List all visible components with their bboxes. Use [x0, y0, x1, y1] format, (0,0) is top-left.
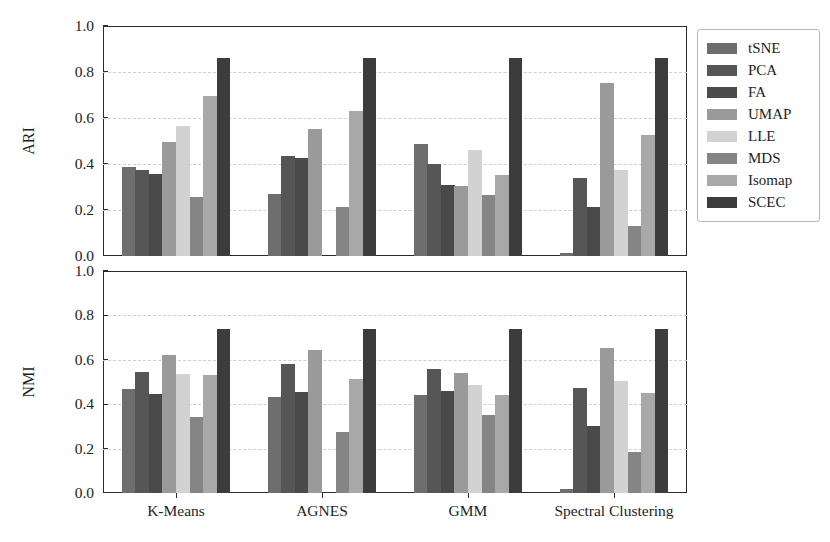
x-axis-tick-label-agnes: AGNES: [296, 502, 348, 520]
y-axis-tick: 0.4: [75, 395, 103, 413]
bar-agnes-mds: [336, 432, 350, 493]
bar-gmm-umap: [454, 186, 468, 256]
y-axis-tick: 0.6: [75, 109, 103, 127]
legend-swatch-icon-pca: [707, 65, 737, 76]
bar-gmm-scec: [509, 329, 523, 493]
bar-spectral-clustering-lle: [614, 170, 628, 256]
y-axis-tick-label: 0.4: [75, 155, 103, 173]
bar-gmm-mds: [482, 195, 496, 256]
legend-item-tsne[interactable]: tSNE: [707, 37, 811, 59]
bar-agnes-umap: [308, 350, 322, 493]
x-axis-tick-mark: [322, 493, 323, 498]
nmi-bars: [103, 271, 687, 493]
bar-gmm-pca: [427, 369, 441, 493]
bar-k-means-lle: [176, 126, 190, 256]
legend-label-lle: LLE: [748, 129, 776, 144]
bar-gmm-lle: [468, 150, 482, 256]
legend-label-mds: MDS: [748, 151, 781, 166]
bar-gmm-tsne: [414, 395, 428, 493]
legend-swatch-icon-scec: [707, 197, 737, 208]
bar-gmm-umap: [454, 373, 468, 493]
ari-axis-title: ARI: [20, 127, 38, 155]
bar-agnes-scec: [363, 329, 377, 493]
bar-k-means-scec: [217, 329, 231, 493]
bar-k-means-tsne: [122, 167, 136, 256]
bar-k-means-pca: [135, 170, 149, 256]
nmi-axis-title: NMI: [20, 366, 38, 397]
bar-spectral-clustering-pca: [573, 388, 587, 493]
bar-spectral-clustering-umap: [600, 348, 614, 493]
x-axis-categories: K-MeansAGNESGMMSpectral Clustering: [103, 493, 687, 523]
bar-agnes-isomap: [349, 379, 363, 493]
bar-spectral-clustering-tsne: [560, 253, 574, 256]
bar-spectral-clustering-pca: [573, 178, 587, 256]
y-axis-tick: 0.8: [75, 63, 103, 81]
bar-agnes-fa: [295, 392, 309, 493]
bar-agnes-pca: [281, 156, 295, 257]
legend-swatch-icon-mds: [707, 153, 737, 164]
x-axis-tick-label-k-means: K-Means: [147, 502, 205, 520]
bar-k-means-scec: [217, 58, 231, 256]
bar-k-means-isomap: [203, 96, 217, 256]
legend-label-umap: UMAP: [748, 107, 791, 122]
bar-spectral-clustering-fa: [587, 207, 601, 256]
bar-gmm-mds: [482, 415, 496, 493]
nmi-chart-panel: 0.00.20.40.60.81.0 NMI K-MeansAGNESGMMSp…: [103, 271, 687, 493]
bar-k-means-umap: [162, 355, 176, 493]
bar-k-means-umap: [162, 142, 176, 256]
bar-agnes-fa: [295, 158, 309, 256]
legend-swatch-icon-lle: [707, 131, 737, 142]
y-axis-tick-label: 0.8: [75, 306, 103, 324]
legend-swatch-icon-umap: [707, 109, 737, 120]
bar-gmm-pca: [427, 164, 441, 256]
y-axis-tick-label: 0.4: [75, 395, 103, 413]
y-axis-tick-label: 0.6: [75, 109, 103, 127]
bar-spectral-clustering-umap: [600, 83, 614, 256]
ari-bars: [103, 26, 687, 256]
legend-item-pca[interactable]: PCA: [707, 59, 811, 81]
bar-spectral-clustering-isomap: [641, 393, 655, 493]
y-axis-tick: 0.4: [75, 155, 103, 173]
bar-gmm-scec: [509, 58, 523, 256]
legend-swatch-icon-fa: [707, 87, 737, 98]
y-axis-tick: 0.8: [75, 306, 103, 324]
y-axis-tick: 0.0: [75, 484, 103, 502]
x-axis-tick-mark: [614, 493, 615, 498]
y-axis-tick-label: 0.2: [75, 440, 103, 458]
bar-gmm-lle: [468, 385, 482, 493]
bar-gmm-fa: [441, 391, 455, 493]
legend-label-isomap: Isomap: [748, 173, 792, 188]
legend-item-isomap[interactable]: Isomap: [707, 169, 811, 191]
bar-spectral-clustering-mds: [628, 226, 642, 256]
bar-spectral-clustering-isomap: [641, 135, 655, 256]
legend-label-tsne: tSNE: [748, 41, 781, 56]
legend-item-fa[interactable]: FA: [707, 81, 811, 103]
y-axis-tick: 0.0: [75, 247, 103, 265]
clustering-benchmark-figure: 0.00.20.40.60.81.0 ARI 0.00.20.40.60.81.…: [0, 0, 830, 542]
bar-spectral-clustering-scec: [655, 58, 669, 256]
bar-gmm-tsne: [414, 144, 428, 256]
y-axis-tick-label: 0.2: [75, 201, 103, 219]
bar-agnes-isomap: [349, 111, 363, 256]
bar-spectral-clustering-fa: [587, 426, 601, 493]
y-axis-tick-label: 0.0: [75, 247, 103, 265]
bar-agnes-mds: [336, 207, 350, 256]
legend-item-mds[interactable]: MDS: [707, 147, 811, 169]
bar-k-means-lle: [176, 374, 190, 493]
bar-k-means-isomap: [203, 375, 217, 493]
x-axis-tick-label-spectral-clustering: Spectral Clustering: [554, 502, 673, 520]
bar-k-means-pca: [135, 372, 149, 493]
bar-k-means-fa: [149, 174, 163, 256]
legend-label-pca: PCA: [748, 63, 777, 78]
x-axis-tick-label-gmm: GMM: [449, 502, 488, 520]
y-axis-tick: 0.6: [75, 351, 103, 369]
y-axis-tick: 1.0: [75, 17, 103, 35]
ari-chart-panel: 0.00.20.40.60.81.0 ARI: [103, 26, 687, 256]
y-axis-tick-label: 0.6: [75, 351, 103, 369]
bar-gmm-isomap: [495, 175, 509, 256]
legend-item-scec[interactable]: SCEC: [707, 191, 811, 213]
legend-item-lle[interactable]: LLE: [707, 125, 811, 147]
legend-item-umap[interactable]: UMAP: [707, 103, 811, 125]
bar-agnes-tsne: [268, 397, 282, 493]
legend-label-fa: FA: [748, 85, 766, 100]
